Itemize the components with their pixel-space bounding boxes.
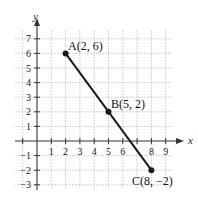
x-tick-6: 6 xyxy=(120,146,125,157)
x-tick-9: 9 xyxy=(163,146,168,157)
y-tick-5: 5 xyxy=(26,63,31,74)
x-axis-arrow-icon xyxy=(176,138,184,144)
point-b-label: B(5, 2) xyxy=(111,97,145,111)
x-tick-labels: 1 2 3 4 5 6 8 9 xyxy=(49,146,168,157)
coordinate-plane: 1 2 3 4 5 6 8 9 7 6 5 4 3 2 1 −1 −2 −3 y… xyxy=(0,0,198,200)
y-tick-3: 3 xyxy=(26,92,31,103)
x-tick-8: 8 xyxy=(149,146,154,157)
point-a-label: A(2, 6) xyxy=(68,39,103,53)
y-tick-2: 2 xyxy=(26,106,31,117)
y-tick-neg3: −3 xyxy=(20,179,31,190)
x-tick-1: 1 xyxy=(49,146,54,157)
x-tick-2: 2 xyxy=(63,146,68,157)
y-tick-4: 4 xyxy=(26,77,31,88)
y-tick-1: 1 xyxy=(26,121,31,132)
y-tick-7: 7 xyxy=(26,33,31,44)
y-axis-label: y xyxy=(32,10,38,22)
point-c xyxy=(148,167,154,173)
x-tick-4: 4 xyxy=(92,146,97,157)
y-tick-neg1: −1 xyxy=(20,150,31,161)
x-axis-label: x xyxy=(187,134,193,146)
point-c-label: C(8, −2) xyxy=(132,174,173,188)
y-tick-neg2: −2 xyxy=(20,165,31,176)
x-tick-5: 5 xyxy=(106,146,111,157)
y-tick-6: 6 xyxy=(26,48,31,59)
x-tick-3: 3 xyxy=(77,146,82,157)
